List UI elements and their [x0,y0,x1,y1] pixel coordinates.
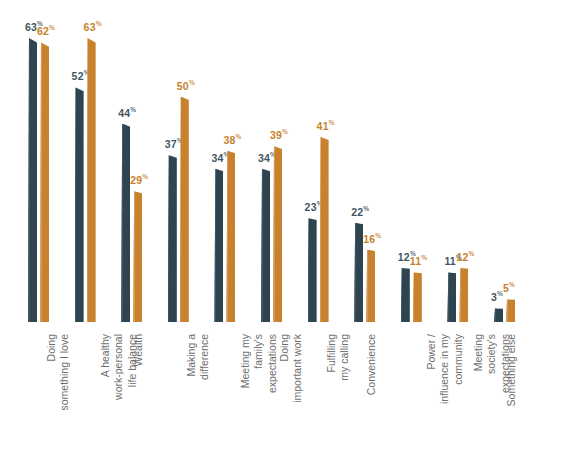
category-axis: Doingsomething I loveA healthywork-perso… [0,330,566,459]
category-label-line: Doing [45,334,58,410]
bar-face [494,308,503,322]
percent-sign: % [130,106,136,113]
bar [75,87,84,322]
percent-sign: % [282,128,288,135]
bar-value: 63 [25,20,37,32]
bar-value-label: 29% [130,174,148,185]
bar [261,169,270,322]
bar-face [40,42,49,322]
category-label-line: society's [485,334,498,393]
bar-face [413,272,422,322]
bar-face [366,250,375,322]
bar-value: 44 [118,106,130,118]
bar-value-label: 62% [37,25,55,36]
bar-value-label: 63% [84,21,102,32]
category-label-line: Doing [278,334,291,403]
bar-face [168,155,177,322]
category-label: Wealth [132,334,145,367]
category-label: Making adifference [185,334,212,380]
bar-value: 39 [270,129,282,141]
category-label-line: Fulfilling [325,334,338,381]
bar-value: 22 [351,205,363,217]
category-label-line: important work [292,334,305,403]
percent-sign: % [235,133,241,140]
bar-value: 12 [456,250,468,262]
bar-face [308,218,317,322]
bar-value: 16 [363,232,375,244]
bar [168,155,177,322]
bar-value: 50 [177,79,189,91]
bar [506,299,515,322]
bar-face [401,268,410,322]
bar-face [320,137,329,322]
bar [28,38,37,322]
category-label-line: Meeting [472,334,485,393]
bar-face [447,272,456,322]
bar [413,272,422,322]
bar-value: 41 [317,120,329,132]
percent-sign: % [509,281,515,288]
percent-sign: % [363,205,369,212]
bar-face [226,151,235,322]
category-label: Convenience [365,334,378,395]
category-label-line: community [452,334,465,404]
category-label-line: influence in my [438,334,451,404]
category-label-line: something I love [59,334,72,410]
bar-face [180,97,189,323]
category-label: Power /influence in mycommunity [425,334,465,404]
category-label-line: family's [252,334,265,393]
bar-value: 12 [398,250,410,262]
percent-sign: % [96,20,102,27]
bar [320,137,329,322]
category-label-line: expectations [265,334,278,393]
bar-value-label: 41% [317,120,335,131]
percent-sign: % [329,119,335,126]
bar-face [354,223,363,322]
bar-value: 52 [72,70,84,82]
bar-value-label: 38% [223,134,241,145]
bar-value: 34 [258,151,270,163]
bar-value-label: 50% [177,80,195,91]
bar [494,308,503,322]
category-label: Something else [505,334,518,406]
bar-value: 62 [37,25,49,37]
bar-face [459,268,468,322]
bar [459,268,468,322]
category-label-line: Power / [425,334,438,404]
percent-sign: % [468,250,474,257]
category-label: Meeting myfamily'sexpectations [239,334,279,393]
bar-face [87,38,96,322]
category-label-line: difference [199,334,212,380]
bar-face [214,169,223,322]
category-label-line: work-personal [112,334,125,400]
bar [273,146,282,322]
bar-value-label: 39% [270,129,288,140]
bar-value: 29 [130,174,142,186]
percent-sign: % [421,254,427,261]
bar [87,38,96,322]
percent-sign: % [375,232,381,239]
bar [121,124,130,322]
bar-value-label: 12% [456,251,474,262]
bar-value: 11 [444,255,456,267]
percent-sign: % [189,79,195,86]
category-label-line: my calling [338,334,351,381]
bar-value-label: 3% [491,291,503,302]
bar [40,42,49,322]
category-label-line: Convenience [365,334,378,395]
bar-value: 37 [165,138,177,150]
bar [366,250,375,322]
category-label: Doingsomething I love [45,334,72,410]
bar [401,268,410,322]
bar-value: 34 [211,151,223,163]
plot-area: 63%62%52%63%44%29%37%50%34%38%34%39%23%4… [0,0,566,330]
bar [214,169,223,322]
category-label-line: Wealth [132,334,145,367]
bar-chart: 63%62%52%63%44%29%37%50%34%38%34%39%23%4… [0,0,566,459]
bar-value-label: 11% [410,255,427,266]
category-label-line: Meeting my [239,334,252,393]
category-label-line: Something else [505,334,518,406]
bar-face [133,191,142,322]
category-label-line: Making a [185,334,198,380]
bar-value: 63 [84,20,96,32]
